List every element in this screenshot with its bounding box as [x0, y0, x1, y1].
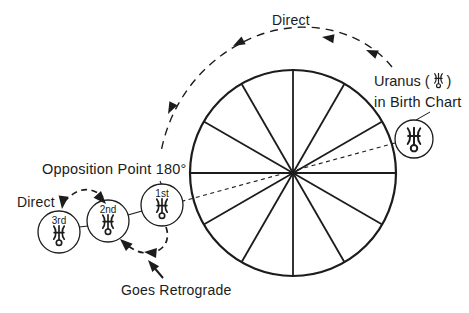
uranus-birth-chart-label-line2: in Birth Chart: [374, 95, 461, 110]
goes-retrograde-arrow: [145, 257, 163, 278]
direct-left-label: Direct: [17, 195, 55, 210]
pass-2nd-label: 2nd: [88, 204, 128, 215]
pass-3rd-label: 3rd: [39, 215, 79, 226]
uranus-label-prefix: Uranus (: [374, 73, 430, 89]
direct-top-label: Direct: [272, 13, 310, 28]
uranus-label-suffix: ): [447, 73, 452, 89]
goes-retrograde-label: Goes Retrograde: [121, 283, 231, 298]
uranus-glyph-icon: [432, 72, 445, 89]
opposition-point-label: Opposition Point 180°: [42, 162, 187, 177]
diagram-artwork: [0, 0, 469, 313]
zodiac-wheel: [183, 70, 396, 276]
pass-1st-label: 1st: [142, 188, 182, 199]
retrograde-arc-arrowheads: [117, 235, 157, 258]
birth-chart-pointer-line: [416, 112, 430, 120]
uranus-birth-chart-label-line1: Uranus ( ): [374, 72, 451, 89]
diagram-uranus-retrograde: Direct Uranus ( ) in Birth Chart Opposit…: [0, 0, 469, 313]
